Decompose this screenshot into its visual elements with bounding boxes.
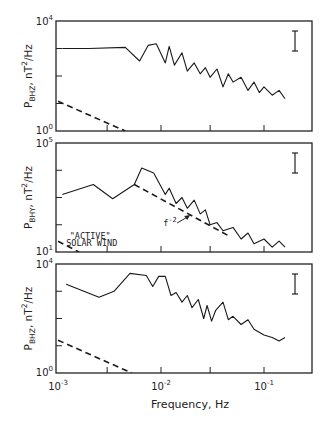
error-bar-icon <box>292 31 298 51</box>
reference-line <box>58 101 125 131</box>
y-tick-label: 100 <box>36 123 53 136</box>
x-axis: 10-310-210-1Frequency, Hz <box>48 379 274 411</box>
y-tick-label: 100 <box>36 365 53 378</box>
y-tick-label: 105 <box>36 136 53 149</box>
y-axis-label: PBHY, nT2/Hz <box>20 165 37 229</box>
annotation: f-2 <box>163 216 177 228</box>
spectral-power-figure: 104100PBHZ, nT2/Hz105101PBHY, nT2/Hz"ACT… <box>0 0 325 422</box>
spectrum-line <box>62 44 285 99</box>
panel-2: 105101PBHY, nT2/Hz"ACTIVE"SOLAR WINDf-2 <box>20 136 312 257</box>
spectrum-line <box>66 273 285 341</box>
y-tick-label: 101 <box>36 244 53 257</box>
x-tick-label: 10-2 <box>151 379 171 392</box>
reference-line <box>58 340 132 373</box>
plot-frame <box>56 21 312 131</box>
x-axis-label: Frequency, Hz <box>151 398 229 411</box>
y-axis-label: PBHZ, nT2/Hz <box>20 286 37 350</box>
y-tick-label: 104 <box>36 14 54 27</box>
x-tick-label: 10-3 <box>48 379 68 392</box>
y-tick-label: 104 <box>36 257 54 270</box>
arrowhead-icon <box>184 215 190 220</box>
annotation: SOLAR WIND <box>66 238 117 248</box>
plot-frame <box>56 264 312 373</box>
reference-line <box>134 185 228 236</box>
panel-1: 104100PBHZ, nT2/Hz <box>20 14 312 136</box>
panel-3: 104100PBHZ, nT2/Hz <box>20 257 312 378</box>
y-axis-label: PBHZ, nT2/Hz <box>20 44 37 108</box>
error-bar-icon <box>292 153 298 173</box>
x-tick-label: 10-1 <box>254 379 274 392</box>
error-bar-icon <box>292 274 298 294</box>
